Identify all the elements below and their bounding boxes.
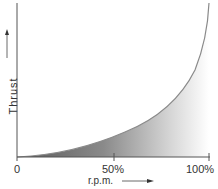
y-arrow-icon (5, 29, 9, 58)
x-axis-title: r.p.m. (88, 175, 113, 186)
x-arrow-icon (122, 179, 154, 183)
y-axis-title: Thrust (7, 73, 19, 119)
x-tick-label-50: 50% (102, 163, 124, 175)
x-tick-label-0: 0 (14, 163, 20, 175)
thrust-rpm-chart (0, 0, 218, 189)
x-tick-label-100: 100% (186, 163, 214, 175)
thrust-area-fill (17, 3, 209, 157)
